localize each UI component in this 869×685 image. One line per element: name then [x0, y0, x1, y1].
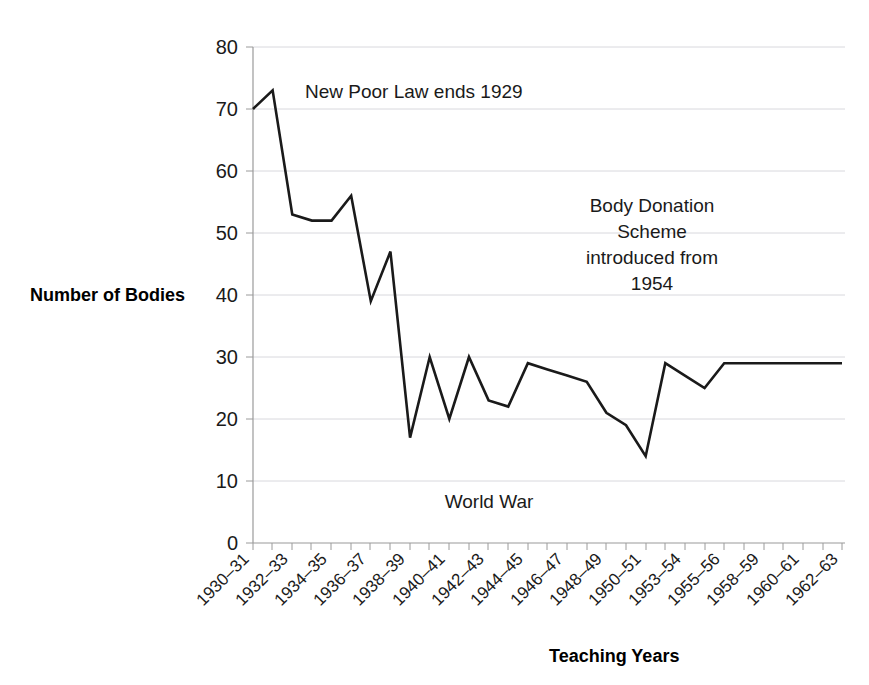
- x-tick-labels: 1930–31 1932–33 1934–35 1936–37 1938–39 …: [193, 549, 842, 609]
- y-tick-labels: 80 70 60 50 40 30 20 10 0: [216, 36, 238, 554]
- annotation-body-donation-line4: 1954: [631, 273, 674, 294]
- annotation-body-donation-line2: Scheme: [617, 221, 687, 242]
- line-chart: 80 70 60 50 40 30 20 10 0 1930–31 1932–3…: [0, 0, 869, 685]
- y-tick-60: 60: [216, 160, 238, 182]
- y-tickmarks: [246, 47, 253, 543]
- data-series-line: [253, 90, 842, 456]
- y-tick-10: 10: [216, 470, 238, 492]
- y-tick-30: 30: [216, 346, 238, 368]
- annotation-body-donation-line1: Body Donation: [590, 195, 715, 216]
- annotation-new-poor-law: New Poor Law ends 1929: [305, 81, 523, 102]
- x-tickmarks: [253, 543, 842, 550]
- chart-canvas: 80 70 60 50 40 30 20 10 0 1930–31 1932–3…: [0, 0, 869, 685]
- annotation-body-donation: Body Donation Scheme introduced from 195…: [586, 195, 718, 294]
- gridlines: [253, 47, 845, 481]
- y-tick-0: 0: [227, 532, 238, 554]
- y-tick-70: 70: [216, 98, 238, 120]
- annotation-world-war: World War: [445, 491, 534, 512]
- y-tick-80: 80: [216, 36, 238, 58]
- y-tick-40: 40: [216, 284, 238, 306]
- annotation-body-donation-line3: introduced from: [586, 247, 718, 268]
- x-axis-title: Teaching Years: [549, 646, 679, 666]
- y-tick-50: 50: [216, 222, 238, 244]
- y-tick-20: 20: [216, 408, 238, 430]
- y-axis-title: Number of Bodies: [30, 285, 185, 305]
